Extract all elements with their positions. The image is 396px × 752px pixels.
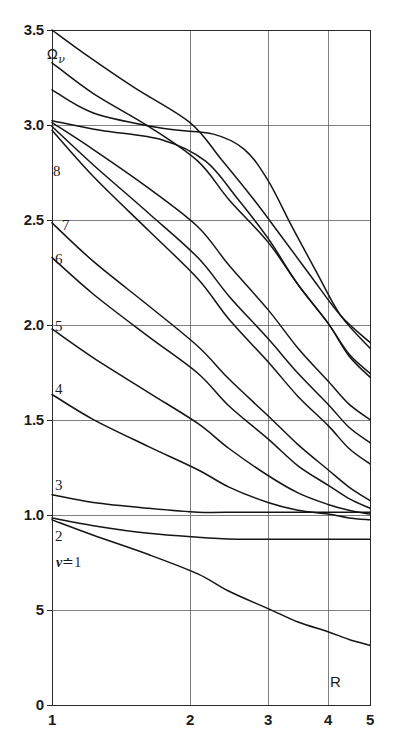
curve-nu-12 bbox=[52, 90, 370, 348]
y-tick-label: 5 bbox=[36, 601, 44, 618]
chart-figure: 3.53.02.52.01.51.050 12345 8765432 Ων ν≐… bbox=[0, 0, 396, 752]
curve-label-nu-equals-1: ν≐1 bbox=[56, 554, 81, 571]
plot-frame bbox=[53, 31, 371, 706]
label-nu-8: 8 bbox=[53, 163, 61, 180]
curve-nu-2 bbox=[52, 518, 370, 539]
x-tick-label: 5 bbox=[356, 711, 384, 728]
y-tick-label: 3.0 bbox=[24, 116, 44, 133]
nu-value: 1 bbox=[74, 555, 81, 570]
curve-nu-10 bbox=[52, 123, 370, 420]
x-tick-label: 4 bbox=[314, 711, 342, 728]
curve-nu-11 bbox=[52, 121, 370, 374]
y-tick-label: 1.0 bbox=[24, 506, 44, 523]
y-tick-label: 2.0 bbox=[24, 316, 44, 333]
y-tick-label: 2.5 bbox=[24, 211, 44, 228]
curve-nu-4 bbox=[52, 395, 370, 520]
curve-nu-13 bbox=[52, 63, 370, 377]
y-tick-label: 1.5 bbox=[24, 411, 44, 428]
omega-glyph: Ω bbox=[47, 46, 58, 62]
curve-nu-8 bbox=[52, 130, 370, 464]
nu-subscript-glyph: ν bbox=[58, 53, 65, 66]
y-axis-symbol-omega-nu: Ων bbox=[47, 46, 65, 66]
label-nu-7: 7 bbox=[62, 217, 70, 234]
axis-ticks bbox=[47, 31, 52, 706]
x-tick-label: 2 bbox=[176, 711, 204, 728]
data-curves bbox=[52, 30, 370, 645]
label-nu-3: 3 bbox=[55, 477, 63, 494]
x-tick-label: 3 bbox=[254, 711, 282, 728]
label-nu-4: 4 bbox=[55, 381, 63, 398]
curve-nu-3 bbox=[52, 495, 370, 513]
y-tick-label: 3.5 bbox=[24, 21, 44, 38]
x-axis-symbol-R: R bbox=[330, 673, 341, 690]
x-tick-label: 1 bbox=[38, 711, 66, 728]
plot-canvas bbox=[0, 0, 396, 752]
label-nu-5: 5 bbox=[55, 318, 63, 335]
approx-equals-glyph: ≐ bbox=[62, 555, 74, 570]
gridlines bbox=[52, 30, 370, 705]
label-nu-2: 2 bbox=[55, 528, 63, 545]
curve-nu-5 bbox=[52, 329, 370, 514]
label-nu-6: 6 bbox=[55, 251, 63, 268]
